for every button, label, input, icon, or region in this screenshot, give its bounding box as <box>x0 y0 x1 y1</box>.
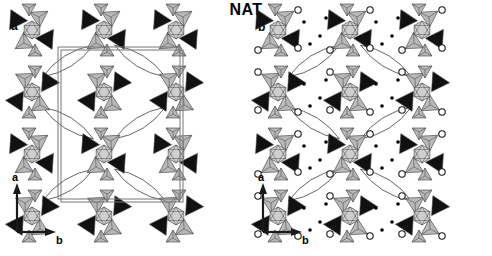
panel-b: b a b <box>246 0 492 256</box>
panel-b-axis-arrows <box>246 0 492 256</box>
figure-root: NAT a a b b a b <box>0 0 492 256</box>
panel-a: a a b <box>0 0 246 256</box>
panel-a-axis-arrows <box>0 0 246 256</box>
